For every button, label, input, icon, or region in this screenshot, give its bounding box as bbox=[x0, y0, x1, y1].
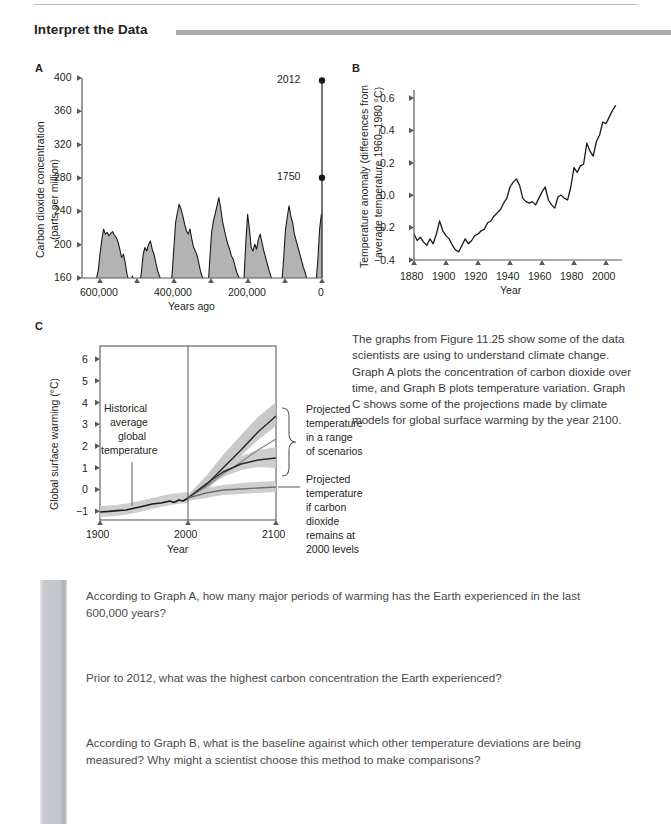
graph-a-xtick-600000: 600,000 bbox=[80, 286, 118, 298]
graph-b-xtick-1880: 1880 bbox=[400, 270, 423, 282]
graph-a-svg bbox=[60, 70, 342, 310]
graph-c-annotation-historical-line4: temperature bbox=[101, 444, 158, 456]
graph-c-annotation-historical-line3: global bbox=[118, 430, 146, 442]
graph-b-xticks bbox=[411, 260, 609, 265]
graph-a-xticks bbox=[97, 278, 325, 283]
panel-letter-c: C bbox=[35, 320, 43, 332]
graph-c-ytick--1: −1 bbox=[76, 505, 88, 517]
graph-b-yticks bbox=[409, 95, 414, 262]
graph-c-ytick-0: 0 bbox=[82, 483, 88, 495]
graph-a-yticks bbox=[77, 75, 82, 281]
graph-a-xtick-200000: 200,000 bbox=[228, 286, 266, 298]
graph-c-xtick-2000: 2000 bbox=[174, 528, 197, 540]
graph-c-annotation-historical-line1: Historical bbox=[104, 402, 147, 414]
figure-description: The graphs from Figure 11.25 show some o… bbox=[352, 331, 634, 429]
graph-a-ytick-320: 320 bbox=[54, 138, 72, 150]
graph-c-ytick-3: 3 bbox=[82, 418, 88, 430]
graph-c-annotation-scenarios-line1: Projected bbox=[306, 403, 350, 415]
graph-a-xtick-0: 0 bbox=[318, 286, 324, 298]
graph-b-xtick-1980: 1980 bbox=[560, 270, 583, 282]
graph-c-annotation-constant-line3: if carbon bbox=[306, 501, 346, 513]
graph-c-annotation-constant-line1: Projected bbox=[306, 473, 350, 485]
graph-c-ytick-6: 6 bbox=[82, 353, 88, 365]
top-divider bbox=[34, 4, 637, 5]
section-header: Interpret the Data bbox=[34, 22, 637, 42]
graph-c-annotation-constant-line2: temperature bbox=[306, 487, 363, 499]
graph-b-xtick-2000: 2000 bbox=[592, 270, 615, 282]
graph-b-series-anomaly bbox=[414, 106, 616, 252]
graph-c-annotation-historical-line2: average bbox=[110, 416, 148, 428]
graph-a-figure bbox=[60, 70, 342, 310]
graph-b-xtick-1920: 1920 bbox=[464, 270, 487, 282]
graph-a-ytick-240: 240 bbox=[54, 204, 72, 216]
graph-b-xtick-1960: 1960 bbox=[528, 270, 551, 282]
graph-b-xlabel: Year bbox=[500, 284, 521, 296]
graph-c-xtick-2100: 2100 bbox=[262, 528, 285, 540]
graph-c-xtick-1900: 1900 bbox=[86, 528, 109, 540]
graph-a-xtick-400000: 400,000 bbox=[154, 286, 192, 298]
graph-b-ytick-0.4: 0.4 bbox=[380, 124, 395, 136]
graph-a-ytick-400: 400 bbox=[54, 71, 72, 83]
graph-a-ytick-360: 360 bbox=[54, 104, 72, 116]
graph-b-figure bbox=[400, 82, 630, 267]
graph-a-annotation-2012: 2012 bbox=[277, 73, 300, 85]
graph-c-ytick-5: 5 bbox=[82, 375, 88, 387]
graph-b-ytick-0.6: 0.6 bbox=[380, 92, 395, 104]
graph-a-ytick-200: 200 bbox=[54, 238, 72, 250]
graph-c-brace-scenarios bbox=[282, 408, 296, 476]
question-1: According to Graph A, how many major per… bbox=[86, 588, 624, 621]
question-2: Prior to 2012, what was the highest carb… bbox=[86, 670, 624, 687]
graph-c-annotation-scenarios-line4: of scenarios bbox=[306, 445, 363, 457]
graph-a-point-2012 bbox=[319, 77, 325, 83]
panel-letter-b: B bbox=[352, 62, 360, 74]
graph-a-ytick-280: 280 bbox=[54, 171, 72, 183]
graph-c-ytick-2: 2 bbox=[82, 440, 88, 452]
question-3: According to Graph B, what is the baseli… bbox=[86, 735, 624, 768]
page-title: Interpret the Data bbox=[34, 22, 148, 37]
graph-a-ytick-160: 160 bbox=[54, 271, 72, 283]
graph-c-annotation-constant-line6: 2000 levels bbox=[306, 543, 359, 555]
graph-c-ylabel: Global surface warming (°C) bbox=[48, 378, 60, 510]
graph-c-ytick-1: 1 bbox=[82, 462, 88, 474]
graph-b-ytick-0.0: 0.0 bbox=[380, 189, 395, 201]
graph-b-xtick-1940: 1940 bbox=[496, 270, 519, 282]
graph-a-point-1750 bbox=[319, 175, 325, 181]
graph-b-ylabel-line1: Temperature anomaly (differences from bbox=[358, 85, 370, 268]
panel-letter-a: A bbox=[35, 62, 43, 74]
graph-c-ytick-4: 4 bbox=[82, 397, 88, 409]
graph-c-xlabel: Year bbox=[167, 543, 188, 555]
graph-b-ytick--0.4: −0.4 bbox=[374, 254, 395, 266]
graph-c-band-historical bbox=[100, 492, 188, 517]
graph-b-ytick-0.2: 0.2 bbox=[380, 157, 395, 169]
graph-a-ylabel-line1: Carbon dioxide concentration bbox=[34, 121, 46, 258]
header-rule bbox=[176, 30, 671, 35]
graph-b-svg bbox=[400, 82, 630, 267]
graph-a-xlabel: Years ago bbox=[168, 300, 215, 312]
graph-c-xticks bbox=[97, 520, 279, 525]
graph-b-ytick--0.2: −0.2 bbox=[374, 221, 395, 233]
graph-c-annotation-constant-line5: remains at bbox=[306, 529, 355, 541]
graph-c-annotation-scenarios-line3: in a range bbox=[306, 431, 353, 443]
questions-accent-bar bbox=[40, 580, 67, 824]
graph-a-annotation-1750: 1750 bbox=[277, 170, 300, 182]
graph-b-xtick-1900: 1900 bbox=[432, 270, 455, 282]
graph-c-yticks bbox=[95, 356, 100, 514]
graph-c-annotation-constant-line4: dioxide bbox=[306, 515, 339, 527]
